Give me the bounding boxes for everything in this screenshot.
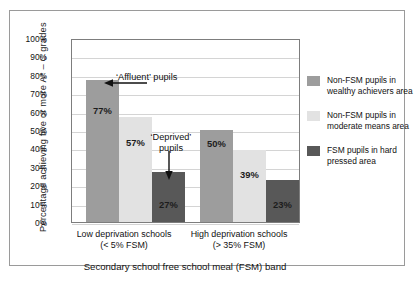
legend-swatch-non-fsm-wealthy: [307, 76, 320, 86]
legend-label-line-2: pressed area: [327, 156, 415, 167]
gridline: [72, 224, 299, 225]
legend-label-line-2: wealthy achievers area: [327, 86, 415, 97]
bar-value-label: 23%: [266, 199, 299, 210]
gridline: [72, 58, 299, 59]
annotation-affluent-pupils: ‘Affluent’ pupils: [116, 72, 177, 83]
deprived-arrow-icon: [164, 151, 174, 180]
x-tick-low-line-1: Low deprivation schools: [77, 229, 172, 239]
bar-value-label: 27%: [152, 199, 185, 210]
x-tick-high-line-2: (> 35% FSM): [213, 240, 266, 250]
bar-high-deprivation-non-fsm-moderate[interactable]: 39%: [233, 150, 266, 222]
y-tick-label: 80%: [5, 71, 47, 81]
legend-label-line-1: Non-FSM pupils in: [327, 110, 415, 121]
annotation-deprived-pupils: ‘Deprived’ pupils: [143, 132, 199, 153]
legend-label-line-2: moderate means area: [327, 121, 415, 132]
x-tick-high-line-1: High deprivation schools: [191, 229, 288, 239]
legend-label-line-1: FSM pupils in hard: [327, 145, 415, 156]
annotation-deprived-line-1: ‘Deprived’: [151, 132, 192, 142]
y-tick-label: 70%: [5, 89, 47, 99]
x-tick-label-high-deprivation: High deprivation schools (> 35% FSM): [169, 229, 309, 251]
x-axis-title: Secondary school free school meal (FSM) …: [45, 261, 325, 272]
figure: Percentage achieving five or more A* – C…: [0, 0, 416, 281]
y-tick-label: 20%: [5, 181, 47, 191]
y-tick-label: 0%: [5, 218, 47, 228]
figure-frame: Percentage achieving five or more A* – C…: [9, 10, 405, 266]
plot-inner: 77% 57% 27% 50% 39% 23%: [72, 40, 299, 222]
annotation-deprived-line-2: pupils: [159, 143, 183, 153]
y-tick-label: 60%: [5, 108, 47, 118]
y-tick-label: 30%: [5, 163, 47, 173]
bar-high-deprivation-fsm-hard-pressed[interactable]: 23%: [266, 180, 299, 222]
x-tick-low-line-2: (< 5% FSM): [100, 240, 148, 250]
legend-swatch-non-fsm-moderate: [307, 111, 320, 121]
bar-high-deprivation-non-fsm-wealthy[interactable]: 50%: [200, 130, 233, 222]
bar-low-deprivation-non-fsm-wealthy[interactable]: 77%: [86, 80, 119, 222]
legend-item-non-fsm-moderate[interactable]: Non-FSM pupils in moderate means area: [307, 110, 415, 132]
bar-value-label: 39%: [233, 169, 266, 180]
y-tick-label: 40%: [5, 144, 47, 154]
y-tick-label: 50%: [5, 126, 47, 136]
legend-label-line-1: Non-FSM pupils in: [327, 75, 415, 86]
legend-item-non-fsm-wealthy[interactable]: Non-FSM pupils in wealthy achievers area: [307, 75, 415, 97]
y-tick-label: 90%: [5, 52, 47, 62]
y-tick-label: 100%: [5, 34, 47, 44]
plot-area: 77% 57% 27% 50% 39% 23%: [71, 39, 300, 223]
bar-value-label: 50%: [200, 138, 233, 149]
legend: Non-FSM pupils in wealthy achievers area…: [307, 75, 415, 180]
y-tick-label: 10%: [5, 200, 47, 210]
legend-item-fsm-hard-pressed[interactable]: FSM pupils in hard pressed area: [307, 145, 415, 167]
legend-swatch-fsm-hard-pressed: [307, 146, 320, 156]
bar-value-label: 77%: [86, 105, 119, 116]
